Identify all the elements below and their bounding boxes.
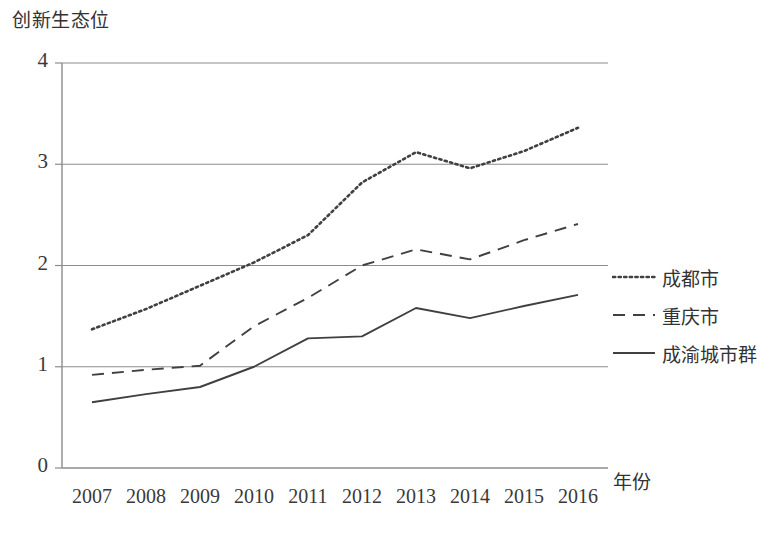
x-axis-tick-label: 2010 bbox=[224, 485, 284, 508]
chart-container: 创新生态位 01234 2007200820092010201120122013… bbox=[0, 0, 780, 543]
legend-line-swatch bbox=[612, 270, 656, 284]
series-line-0 bbox=[92, 128, 578, 329]
x-axis-tick-label: 2015 bbox=[494, 485, 554, 508]
y-axis-tick-label: 4 bbox=[14, 48, 48, 73]
x-axis-title: 年份 bbox=[613, 467, 651, 494]
y-axis-tick-label: 2 bbox=[14, 251, 48, 276]
x-axis-tick-label: 2012 bbox=[332, 485, 392, 508]
gridlines bbox=[62, 63, 608, 468]
x-axis-tick-label: 2011 bbox=[278, 485, 338, 508]
x-axis-tick-label: 2008 bbox=[116, 485, 176, 508]
legend-line-swatch bbox=[612, 308, 656, 322]
axis-lines bbox=[55, 63, 62, 468]
chart-legend: 成都市重庆市成渝城市群 bbox=[612, 258, 777, 372]
y-axis-tick-label: 0 bbox=[14, 453, 48, 478]
x-axis-tick-label: 2013 bbox=[386, 485, 446, 508]
x-axis-tick-label: 2016 bbox=[548, 485, 608, 508]
legend-item-label: 成渝城市群 bbox=[656, 340, 757, 367]
series-line-1 bbox=[92, 224, 578, 375]
legend-item-label: 成都市 bbox=[656, 264, 719, 291]
legend-item[interactable]: 成都市 bbox=[612, 258, 777, 296]
legend-item[interactable]: 重庆市 bbox=[612, 296, 777, 334]
legend-item[interactable]: 成渝城市群 bbox=[612, 334, 777, 372]
x-axis-tick-label: 2007 bbox=[62, 485, 122, 508]
series-line-2 bbox=[92, 295, 578, 402]
x-axis-tick-label: 2014 bbox=[440, 485, 500, 508]
x-axis-tick-label: 2009 bbox=[170, 485, 230, 508]
legend-item-label: 重庆市 bbox=[656, 302, 719, 329]
y-axis-tick-label: 1 bbox=[14, 352, 48, 377]
legend-line-swatch bbox=[612, 346, 656, 360]
y-axis-tick-label: 3 bbox=[14, 149, 48, 174]
